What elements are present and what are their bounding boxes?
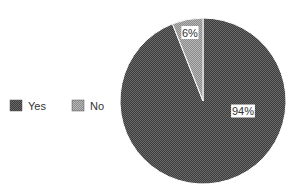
- data-label-no: 6%: [182, 27, 198, 39]
- data-label-yes: 94%: [232, 105, 254, 117]
- legend-swatch-yes: [10, 100, 22, 111]
- legend: Yes No: [10, 100, 104, 112]
- legend-label-yes: Yes: [28, 100, 46, 112]
- legend-label-no: No: [90, 100, 104, 112]
- pie-chart: 94%6% Yes No: [0, 0, 303, 191]
- legend-swatch-no: [72, 100, 84, 111]
